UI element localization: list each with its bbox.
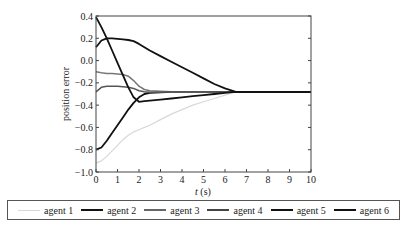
y-axis-label: position error [60, 66, 71, 121]
legend-swatch [207, 209, 229, 211]
legend-item-agent-3: agent 3 [144, 205, 199, 216]
legend-swatch [334, 209, 356, 211]
x-axis-label-var: t [195, 186, 198, 197]
legend-swatch [144, 209, 166, 211]
legend-item-agent-6: agent 6 [334, 205, 389, 216]
legend-label: agent 6 [360, 205, 389, 216]
x-axis-label-unit: (s) [200, 186, 211, 198]
legend-swatch [18, 210, 40, 211]
x-tick-label: 4 [180, 174, 185, 185]
x-tick-label: 6 [223, 174, 228, 185]
legend-item-agent-4: agent 4 [207, 205, 262, 216]
legend-item-agent-2: agent 2 [81, 205, 136, 216]
series-line-agent-6 [96, 17, 311, 102]
y-tick-label: −0.2 [75, 77, 93, 88]
x-tick-label: 3 [158, 174, 163, 185]
legend-swatch [81, 209, 103, 211]
legend-swatch [271, 209, 293, 211]
x-tick-label: 10 [306, 174, 316, 185]
y-tick-label: 0.0 [81, 55, 94, 66]
legend-label: agent 5 [297, 205, 326, 216]
plot-lines [96, 17, 311, 163]
y-tick-label: −0.8 [75, 144, 93, 155]
y-tick-label: −0.4 [75, 100, 93, 111]
series-line-agent-2 [96, 92, 311, 150]
series-line-agent-1 [96, 92, 311, 163]
x-tick-label: 8 [266, 174, 271, 185]
y-tick-label: −1.0 [75, 167, 93, 178]
x-axis-ticks: 012345678910 [94, 169, 317, 185]
x-tick-label: 9 [287, 174, 292, 185]
legend-label: agent 4 [233, 205, 262, 216]
x-tick-label: 2 [137, 174, 142, 185]
y-tick-label: 0.4 [81, 11, 94, 22]
x-tick-label: 0 [94, 174, 99, 185]
y-tick-label: 0.2 [81, 33, 94, 44]
legend-label: agent 2 [107, 205, 136, 216]
legend-item-agent-5: agent 5 [271, 205, 326, 216]
chart-legend: agent 1agent 2agent 3agent 4agent 5agent… [7, 200, 400, 220]
x-tick-label: 5 [201, 174, 206, 185]
x-tick-label: 1 [115, 174, 120, 185]
line-chart: 012345678910 0.40.20.0−0.2−0.4−0.6−0.8−1… [0, 0, 405, 230]
series-line-agent-5 [96, 38, 311, 92]
x-tick-label: 7 [244, 174, 249, 185]
y-tick-label: −0.6 [75, 122, 93, 133]
x-axis-label: t (s) [195, 186, 211, 198]
legend-label: agent 1 [44, 205, 73, 216]
legend-item-agent-1: agent 1 [18, 205, 73, 216]
legend-label: agent 3 [170, 205, 199, 216]
